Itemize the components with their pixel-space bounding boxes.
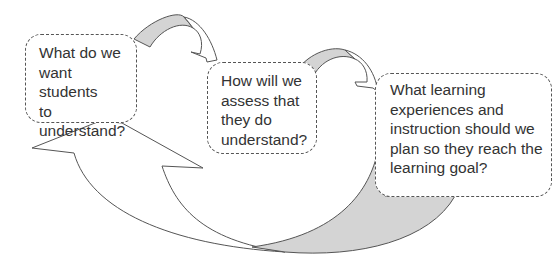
assessment-box: How will we assess that they do understa…: [207, 62, 317, 154]
box2-line: assess that: [221, 91, 308, 111]
box3-line: What learning: [390, 80, 543, 100]
box1-line: What do we: [39, 43, 128, 63]
box2-line: understand?: [221, 130, 308, 150]
box1-line: to: [39, 102, 128, 122]
box3-line: learning goal?: [390, 158, 543, 178]
box3-line: instruction should we: [390, 119, 543, 139]
arrow-box1-to-box2: [134, 15, 217, 62]
box2-line: How will we: [221, 71, 308, 91]
box1-line: understand?: [39, 121, 128, 141]
box3-line: plan so they reach the: [390, 139, 543, 159]
box3-line: experiences and: [390, 100, 543, 120]
understand-goal-box: What do we want students to understand?: [25, 34, 137, 123]
learning-experiences-box: What learning experiences and instructio…: [375, 73, 552, 197]
box2-line: they do: [221, 110, 308, 130]
box1-line: want students: [39, 63, 128, 102]
